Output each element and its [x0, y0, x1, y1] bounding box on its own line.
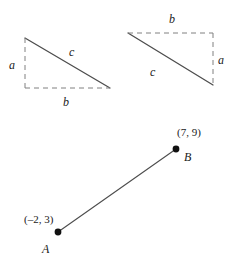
right-triangle-label-b: b	[169, 13, 175, 25]
right-triangle-label-a: a	[218, 54, 224, 66]
point-a-coordinates: (–2, 3)	[24, 214, 53, 225]
segment-ab-group	[55, 146, 180, 236]
point-b-coordinates: (7, 9)	[177, 127, 201, 138]
right-triangle-hypotenuse	[128, 33, 213, 85]
point-b-label: B	[184, 151, 191, 163]
point-a-dot	[55, 229, 62, 236]
left-triangle-label-b: b	[63, 96, 69, 108]
left-triangle-group	[25, 38, 110, 88]
segment-ab-line	[58, 149, 176, 232]
point-a-label: A	[42, 243, 49, 255]
left-triangle-label-a: a	[9, 59, 15, 71]
point-b-dot	[173, 146, 180, 153]
right-triangle-group	[128, 33, 213, 85]
left-triangle-hypotenuse	[25, 38, 110, 88]
right-triangle-label-c: c	[150, 66, 155, 78]
left-triangle-label-c: c	[69, 46, 74, 58]
